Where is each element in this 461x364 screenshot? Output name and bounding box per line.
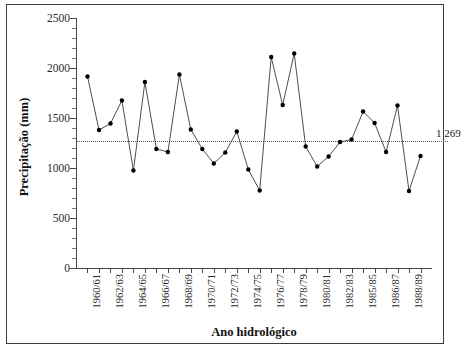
data-point (269, 55, 273, 59)
data-point (338, 140, 342, 144)
data-point (315, 164, 319, 168)
data-point (189, 127, 193, 131)
data-point (154, 147, 158, 151)
series-line (88, 54, 421, 192)
data-point (395, 103, 399, 107)
data-point (212, 161, 216, 165)
data-point (361, 109, 365, 113)
data-point (258, 188, 262, 192)
data-point (281, 103, 285, 107)
data-point (200, 147, 204, 151)
x-axis-title: Ano hidrológico (76, 325, 432, 340)
data-point (326, 154, 330, 158)
data-point (131, 168, 135, 172)
data-point (384, 150, 388, 154)
data-point (143, 80, 147, 84)
data-point (177, 72, 181, 76)
data-point (372, 121, 376, 125)
data-point (349, 137, 353, 141)
data-point (85, 74, 89, 78)
data-point (418, 154, 422, 158)
data-point (97, 128, 101, 132)
data-point (120, 98, 124, 102)
data-point (292, 51, 296, 55)
data-point (108, 121, 112, 125)
data-point (304, 144, 308, 148)
data-point (246, 167, 250, 171)
data-point (407, 189, 411, 193)
data-point (235, 129, 239, 133)
data-point (166, 150, 170, 154)
data-point (223, 150, 227, 154)
